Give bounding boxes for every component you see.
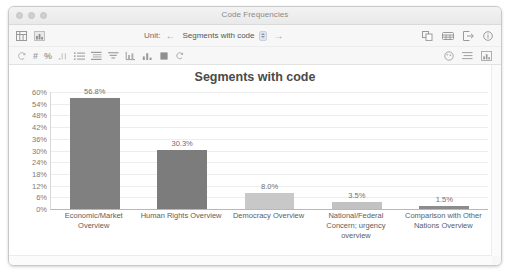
y-axis-tick-label: 24%: [32, 158, 47, 167]
y-axis-tick-label: 18%: [32, 169, 47, 178]
percent-icon[interactable]: %: [44, 51, 52, 61]
y-axis-tick-label: 42%: [32, 123, 47, 132]
x-axis-category-label: Comparison with Other Nations Overview: [400, 211, 487, 241]
reset-icon[interactable]: [175, 51, 185, 61]
bar-value-label: 30.3%: [171, 139, 192, 148]
vertical-scrollbar[interactable]: [491, 65, 501, 256]
bar-slot: 30.3%: [138, 92, 225, 209]
hash-icon[interactable]: #: [33, 51, 38, 61]
y-axis-tick-label: 54%: [32, 99, 47, 108]
unit-label: Unit:: [144, 31, 160, 40]
unit-select[interactable]: Segments with code: [180, 30, 268, 42]
toolbar-primary: Unit: ← Segments with code →: [9, 25, 501, 47]
x-axis-labels: Economic/Market OverviewHuman Rights Ove…: [50, 211, 487, 241]
list-icon[interactable]: [74, 51, 85, 61]
window-titlebar[interactable]: Code Frequencies: [9, 7, 501, 25]
x-axis-category-label: Democracy Overview: [225, 211, 312, 241]
y-axis-tick-label: 6%: [36, 193, 47, 202]
x-axis-category-label: Economic/Market Overview: [50, 211, 137, 241]
chart-title: Segments with code: [9, 70, 501, 84]
refresh-pointer-icon[interactable]: [17, 51, 27, 61]
palette-icon[interactable]: [444, 51, 454, 61]
bar-series: 56.8%30.3%8.0%3.5%1.5%: [51, 92, 488, 209]
bar[interactable]: 8.0%: [245, 193, 295, 209]
bar-slot: 8.0%: [226, 92, 313, 209]
bar[interactable]: 56.8%: [70, 98, 120, 209]
bar-slot: 1.5%: [401, 92, 488, 209]
bar-slot: 3.5%: [313, 92, 400, 209]
bar-value-label: 1.5%: [436, 195, 453, 204]
chart-canvas: Segments with code 60%54%48%42%36%30%24%…: [9, 65, 501, 265]
y-axis-tick-label: 30%: [32, 146, 47, 155]
horizontal-scrollbar[interactable]: [9, 255, 492, 265]
bar[interactable]: 30.3%: [157, 150, 207, 209]
axis-chart-icon[interactable]: [125, 51, 136, 61]
chart-settings-icon[interactable]: [481, 51, 492, 61]
bar-value-label: 3.5%: [348, 191, 365, 200]
screen: Code Frequencies: [0, 0, 508, 276]
bar-chart-icon[interactable]: [142, 51, 153, 61]
gridline: 0%: [51, 209, 488, 210]
toolbar-secondary-left-group: # %: [9, 51, 185, 61]
previous-unit-arrow-icon[interactable]: ←: [165, 31, 175, 41]
chart-view-icon[interactable]: [34, 31, 45, 41]
x-axis-category-label: Human Rights Overview: [137, 211, 224, 241]
toolbar-left-group: [9, 31, 45, 41]
plot-area: 60%54%48%42%36%30%24%18%12%6%0% 56.8%30.…: [50, 92, 488, 210]
copy-icon[interactable]: [422, 31, 433, 41]
x-axis-category-label: National/Federal Concern; urgency overvi…: [312, 211, 399, 241]
info-icon[interactable]: [483, 31, 493, 41]
next-unit-arrow-icon[interactable]: →: [274, 31, 284, 41]
chevron-updown-icon: [259, 31, 267, 41]
toolbar-secondary: # %: [9, 47, 501, 65]
bar-slot: 56.8%: [51, 92, 138, 209]
table-view-icon[interactable]: [16, 31, 27, 41]
y-axis-tick-label: 36%: [32, 134, 47, 143]
grouped-list-icon[interactable]: [91, 51, 102, 61]
bar-value-label: 8.0%: [261, 182, 278, 191]
bar[interactable]: 3.5%: [332, 202, 382, 209]
y-axis-tick-label: 12%: [32, 181, 47, 190]
toolbar-right-group: [422, 25, 493, 46]
color-fill-icon[interactable]: [159, 51, 169, 61]
bar-value-label: 56.8%: [84, 87, 105, 96]
export-icon[interactable]: [463, 31, 474, 41]
toolbar-secondary-right-group: [444, 47, 492, 64]
decimal-places-icon[interactable]: [58, 51, 68, 61]
table-export-icon[interactable]: [442, 31, 454, 41]
unit-select-value: Segments with code: [182, 31, 254, 40]
bar[interactable]: 1.5%: [419, 206, 469, 209]
window-title: Code Frequencies: [9, 10, 501, 19]
app-window: Code Frequencies: [8, 6, 502, 266]
legend-icon[interactable]: [462, 51, 473, 60]
unit-control-group: Unit: ← Segments with code →: [144, 25, 284, 46]
y-axis-tick-label: 60%: [32, 88, 47, 97]
sort-icon[interactable]: [108, 51, 119, 61]
y-axis-tick-label: 0%: [36, 205, 47, 214]
y-axis-tick-label: 48%: [32, 111, 47, 120]
scroll-corner: [492, 256, 501, 265]
